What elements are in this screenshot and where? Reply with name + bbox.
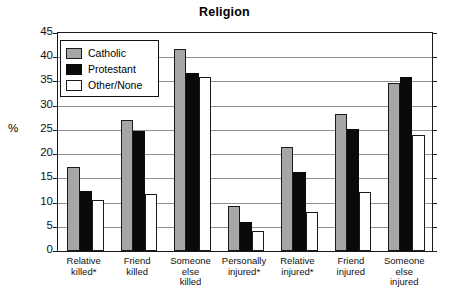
x-axis-tick-label-line: injured* — [271, 267, 324, 278]
x-axis-tick-label: Someoneelseinjured — [378, 256, 431, 288]
y-axis-tick-mark-right — [432, 130, 437, 131]
x-axis-tick-label-line: Someone — [378, 256, 431, 267]
bar-group — [272, 33, 325, 251]
x-axis-tick-label: Relativekilled* — [57, 256, 110, 277]
chart-legend: Catholic Protestant Other/None — [60, 40, 159, 97]
bar-catholic[interactable] — [281, 147, 293, 251]
y-axis-tick-mark-right — [432, 106, 437, 107]
x-axis-tick-label-line: injured — [324, 267, 377, 278]
chart-title: Religion — [0, 5, 449, 19]
bar-other-none[interactable] — [92, 200, 104, 251]
x-axis-tick-label: Someoneelsekilled — [164, 256, 217, 288]
legend-swatch-catholic-icon — [66, 48, 82, 59]
y-axis-tick-label: 40 — [31, 50, 53, 62]
legend-label-catholic: Catholic — [88, 48, 126, 59]
x-axis-tick-label: Friendkilled — [110, 256, 163, 277]
y-axis-tick-mark-right — [432, 227, 437, 228]
y-axis-tick-mark-right — [432, 57, 437, 58]
bar-catholic[interactable] — [388, 83, 400, 251]
x-axis-tick-label: Personallyinjured* — [217, 256, 270, 277]
bar-group — [325, 33, 378, 251]
y-axis-title: % — [8, 122, 18, 134]
bar-protestant[interactable] — [186, 73, 198, 251]
y-axis-tick-mark-right — [432, 154, 437, 155]
bar-protestant[interactable] — [293, 172, 305, 251]
y-axis-tick-label: 0 — [31, 244, 53, 256]
x-axis-tick-label-line: Relative — [271, 256, 324, 267]
bar-protestant[interactable] — [400, 77, 412, 251]
bar-catholic[interactable] — [335, 114, 347, 251]
bar-protestant[interactable] — [80, 191, 92, 251]
y-axis-tick-mark-right — [432, 251, 437, 252]
bar-group — [379, 33, 432, 251]
y-axis-tick-label: 15 — [31, 171, 53, 183]
legend-label-protestant: Protestant — [88, 64, 136, 75]
x-axis-tick-label: Friendinjured — [324, 256, 377, 277]
x-axis-tick-label-line: killed — [110, 267, 163, 278]
bar-other-none[interactable] — [412, 135, 424, 251]
legend-item-protestant[interactable]: Protestant — [66, 61, 153, 77]
x-axis-tick-label-line: Friend — [324, 256, 377, 267]
bar-other-none[interactable] — [145, 194, 157, 251]
y-axis-tick-mark-right — [432, 178, 437, 179]
legend-label-other-none: Other/None — [88, 80, 142, 91]
y-axis-tick-label: 10 — [31, 196, 53, 208]
bar-catholic[interactable] — [228, 206, 240, 251]
x-axis-tick-labels: Relativekilled*FriendkilledSomeoneelseki… — [57, 256, 431, 304]
x-axis-tick-label-line: Personally — [217, 256, 270, 267]
y-axis-tick-label: 20 — [31, 147, 53, 159]
y-axis-tick-labels: 454035302520151050 — [27, 32, 53, 250]
bar-catholic[interactable] — [67, 167, 79, 251]
bar-protestant[interactable] — [240, 222, 252, 251]
y-axis-tick-mark-right — [432, 81, 437, 82]
x-axis-tick-label: Relativeinjured* — [271, 256, 324, 277]
x-axis-tick-label-line: killed — [164, 277, 217, 288]
y-axis-tick-mark-right — [432, 33, 437, 34]
legend-item-other-none[interactable]: Other/None — [66, 77, 153, 93]
legend-item-catholic[interactable]: Catholic — [66, 45, 153, 61]
bar-other-none[interactable] — [252, 231, 264, 251]
y-axis-tick-label: 5 — [31, 220, 53, 232]
y-axis-tick-label: 25 — [31, 123, 53, 135]
legend-swatch-other-none-icon — [66, 80, 82, 91]
bar-protestant[interactable] — [347, 129, 359, 251]
legend-swatch-protestant-icon — [66, 64, 82, 75]
bar-group — [218, 33, 271, 251]
x-axis-tick-label-line: Friend — [110, 256, 163, 267]
y-axis-tick-label: 45 — [31, 26, 53, 38]
y-axis-tick-label: 30 — [31, 99, 53, 111]
x-axis-tick-label-line: injured* — [217, 267, 270, 278]
religion-bar-chart: Religion % 454035302520151050 Relativeki… — [0, 0, 449, 307]
y-axis-tick-mark — [53, 251, 58, 252]
y-axis-tick-mark-right — [432, 203, 437, 204]
x-axis-tick-label-line: Someone — [164, 256, 217, 267]
x-axis-tick-label-line: killed* — [57, 267, 110, 278]
bar-other-none[interactable] — [359, 192, 371, 251]
bar-other-none[interactable] — [199, 77, 211, 251]
x-axis-tick-label-line: Relative — [57, 256, 110, 267]
y-axis-tick-label: 35 — [31, 74, 53, 86]
bar-catholic[interactable] — [121, 120, 133, 251]
bar-protestant[interactable] — [133, 131, 145, 251]
bar-group — [165, 33, 218, 251]
x-axis-tick-label-line: injured — [378, 277, 431, 288]
bar-other-none[interactable] — [306, 212, 318, 251]
bar-catholic[interactable] — [174, 49, 186, 251]
